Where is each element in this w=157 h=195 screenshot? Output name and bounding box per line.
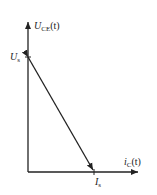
y-intercept-label: Us: [10, 51, 20, 64]
y-axis-label: UCE(t): [34, 20, 60, 33]
x-intercept-label: Is: [94, 176, 101, 189]
load-line: [28, 57, 93, 170]
load-line-diagram: UCE(t) Us iC(t) Is: [0, 0, 157, 195]
x-axis-label: iC(t): [124, 156, 141, 169]
